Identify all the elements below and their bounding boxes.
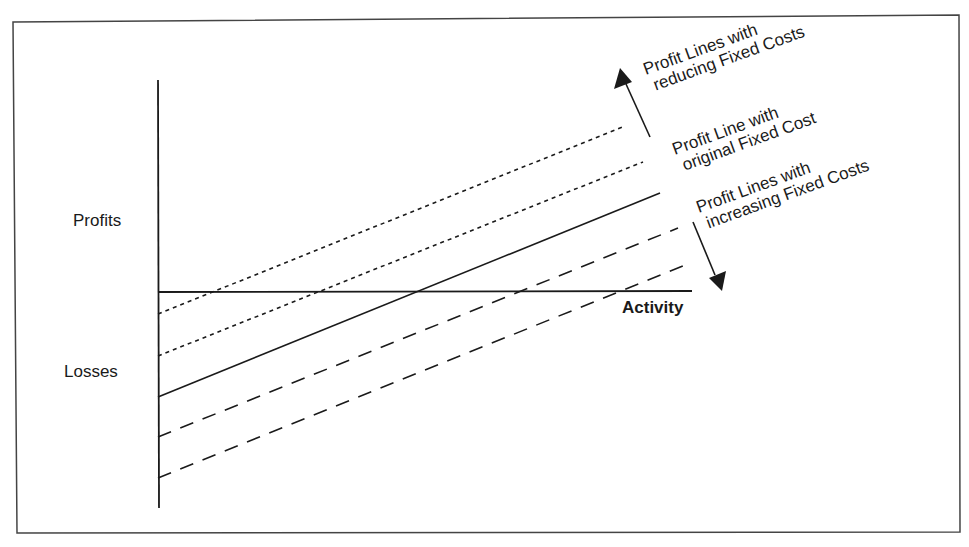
losses-label: Losses bbox=[64, 362, 118, 381]
profit-line-increased-fixed-cost-2 bbox=[158, 263, 690, 478]
profit-line-reduced-fixed-cost-1 bbox=[158, 162, 643, 356]
profit-line-original-fixed-cost bbox=[158, 193, 660, 397]
y-axis bbox=[158, 80, 159, 508]
arrow-up-icon bbox=[614, 68, 650, 137]
profit-line-reduced-fixed-cost-2 bbox=[158, 126, 625, 314]
profit-line-increased-fixed-cost-1 bbox=[158, 228, 678, 437]
annotation-reducing-fixed-costs: Profit Lines with reducing Fixed Costs bbox=[641, 5, 807, 96]
profit-fixed-cost-diagram: Profits Losses Activity Profit Lines wit… bbox=[0, 0, 969, 547]
frame-border bbox=[13, 15, 960, 533]
profits-label: Profits bbox=[73, 211, 121, 230]
x-axis bbox=[158, 291, 692, 292]
activity-label: Activity bbox=[622, 298, 684, 317]
